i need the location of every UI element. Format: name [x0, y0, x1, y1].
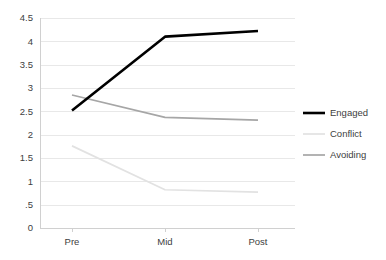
gridlines	[40, 19, 295, 229]
y-axis-tick-labels: 0.511.522.533.544.5	[20, 12, 33, 233]
x-tick-label-post: Post	[248, 236, 267, 247]
legend-label-conflict: Conflict	[330, 128, 362, 139]
y-tick-label: 1	[28, 176, 33, 187]
line-chart: 0.511.522.533.544.5 PreMidPost EngagedCo…	[0, 0, 386, 260]
series-line-avoiding	[72, 95, 258, 120]
x-tick-label-pre: Pre	[65, 236, 80, 247]
y-tick-label: 0	[28, 222, 33, 233]
chart-legend: EngagedConflictAvoiding	[303, 107, 368, 160]
y-tick-label: 2	[28, 129, 33, 140]
y-tick-label: 1.5	[20, 152, 33, 163]
chart-canvas: 0.511.522.533.544.5 PreMidPost EngagedCo…	[0, 0, 386, 260]
y-tick-label: 3	[28, 82, 33, 93]
legend-label-avoiding: Avoiding	[330, 149, 366, 160]
x-tick-label-mid: Mid	[157, 236, 172, 247]
y-tick-label: 3.5	[20, 59, 33, 70]
y-tick-label: 4.5	[20, 12, 33, 23]
y-tick-label: 4	[28, 36, 33, 47]
legend-label-engaged: Engaged	[330, 107, 368, 118]
y-tick-label: 2.5	[20, 106, 33, 117]
y-tick-label: .5	[25, 199, 33, 210]
series-line-engaged	[72, 31, 258, 110]
series-line-conflict	[72, 146, 258, 192]
x-axis-tick-labels: PreMidPost	[65, 236, 268, 247]
